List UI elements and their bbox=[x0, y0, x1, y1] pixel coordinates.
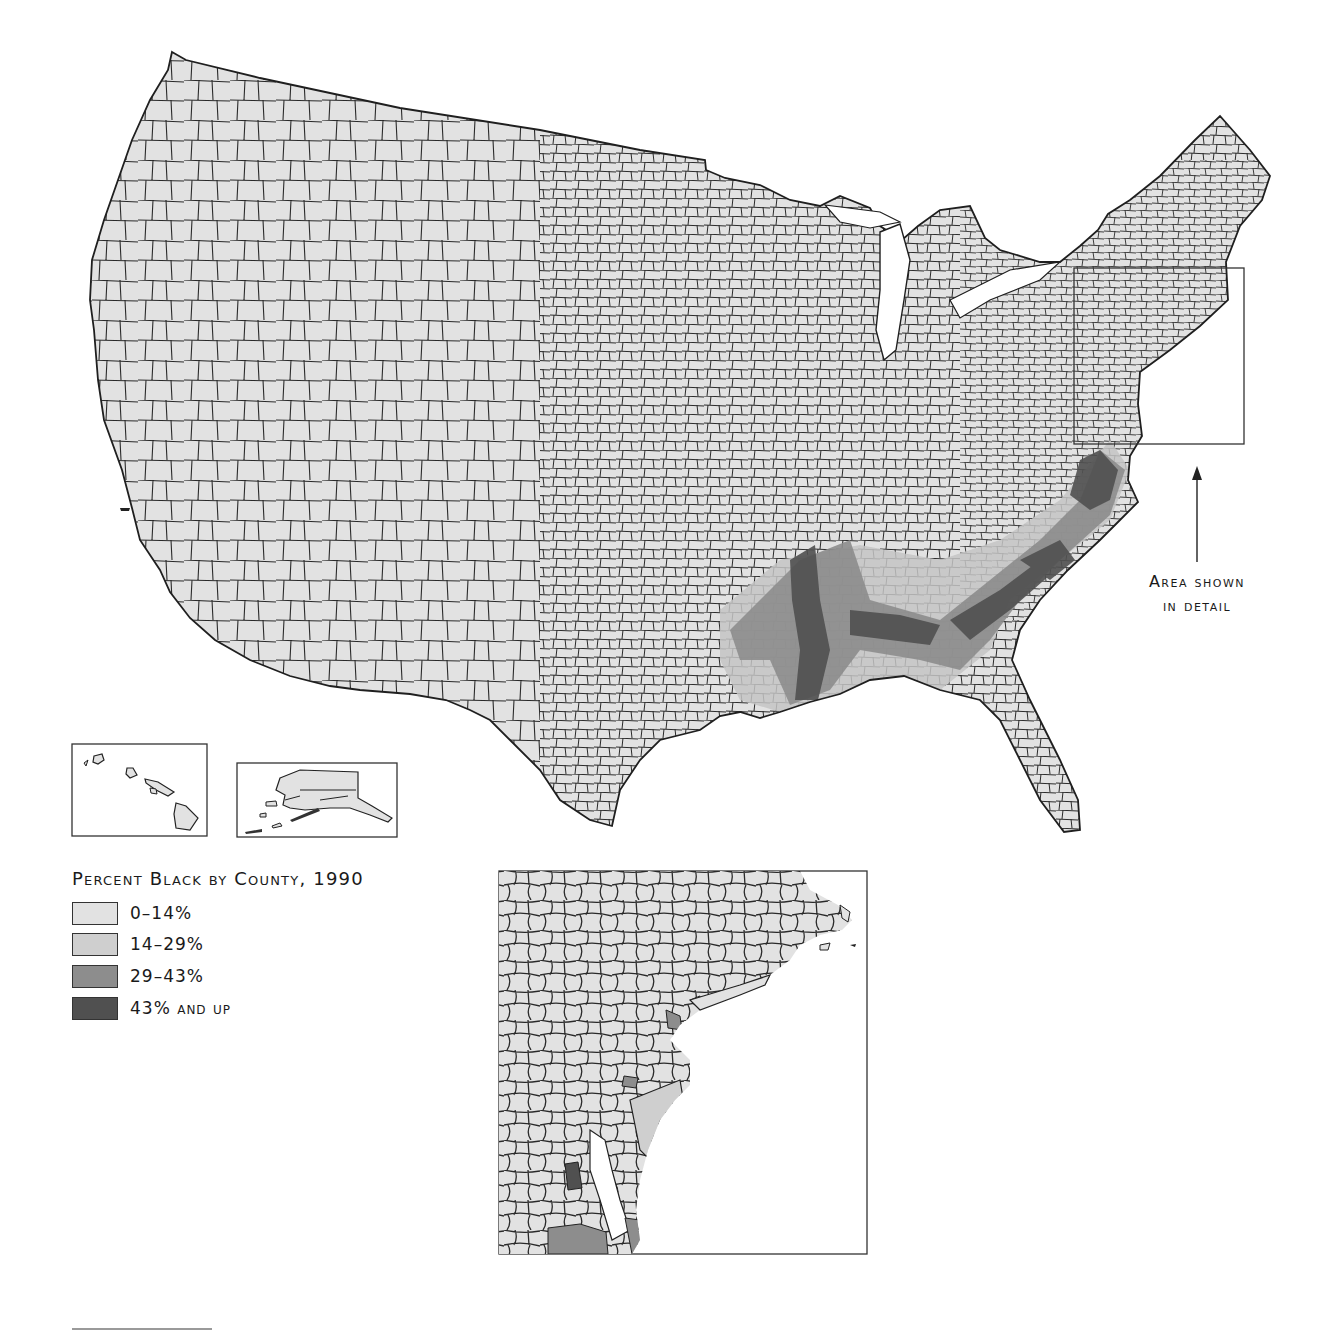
footnote-rule bbox=[72, 1328, 212, 1330]
legend-item-43-up: 43% and up bbox=[72, 995, 231, 1021]
detail-annotation: Area shown in detail bbox=[1132, 570, 1262, 618]
alaska-inset bbox=[237, 763, 397, 837]
northeast-detail-inset bbox=[499, 871, 867, 1254]
legend-label: 29–43% bbox=[130, 966, 204, 986]
legend-label: 43% and up bbox=[130, 998, 231, 1018]
legend-item-14-29: 14–29% bbox=[72, 931, 204, 957]
legend-swatch bbox=[72, 902, 118, 925]
legend-item-29-43: 29–43% bbox=[72, 963, 204, 989]
us-county-map bbox=[0, 0, 1344, 1331]
channel-islands-mark bbox=[120, 508, 130, 511]
legend-title: Percent Black by County, 1990 bbox=[72, 868, 364, 889]
legend-label: 14–29% bbox=[130, 934, 204, 954]
legend-item-0-14: 0–14% bbox=[72, 900, 192, 926]
legend-swatch bbox=[72, 965, 118, 988]
hawaii-inset bbox=[72, 744, 207, 836]
annotation-line-1: Area shown bbox=[1132, 570, 1262, 594]
annotation-line-2: in detail bbox=[1132, 594, 1262, 618]
legend-swatch bbox=[72, 997, 118, 1020]
legend-label: 0–14% bbox=[130, 903, 192, 923]
legend-swatch bbox=[72, 933, 118, 956]
arrow-up-icon bbox=[1192, 466, 1202, 480]
